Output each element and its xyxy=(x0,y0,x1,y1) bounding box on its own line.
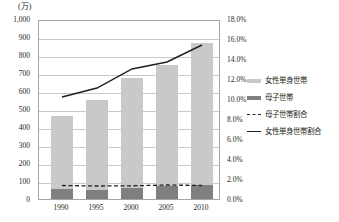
legend-item-female-single-households[interactable]: 女性単身世帯 xyxy=(247,72,339,89)
right-axis-tick: 10.0% xyxy=(227,96,246,104)
chart-container: (万) 1,000 900 800 700 600 500 400 300 20… xyxy=(0,0,339,222)
right-axis-tick: 4.0% xyxy=(227,156,243,164)
x-axis-tick: 1990 xyxy=(44,203,78,212)
left-axis-tick: 0 xyxy=(26,196,30,204)
legend-swatch-light-bar-icon xyxy=(247,79,261,83)
legend-label: 女性単身世帯割合 xyxy=(265,127,321,136)
right-axis-tick: 18.0% xyxy=(227,16,246,24)
legend: 女性単身世帯 母子世帯 母子世帯割合 女性単身世帯割合 xyxy=(247,72,339,140)
x-axis-tick: 2005 xyxy=(149,203,183,212)
legend-dashed-line-icon xyxy=(247,114,261,115)
legend-label: 女性単身世帯 xyxy=(265,76,307,85)
left-axis-tick: 300 xyxy=(19,142,30,150)
legend-item-single-mother-households[interactable]: 母子世帯 xyxy=(247,89,339,106)
right-axis-tick: 14.0% xyxy=(227,56,246,64)
left-axis-tick: 200 xyxy=(19,160,30,168)
plot-area xyxy=(38,20,220,200)
right-axis-tick: 12.0% xyxy=(227,76,246,84)
left-axis-tick: 100 xyxy=(19,178,30,186)
right-axis-tick: 6.0% xyxy=(227,136,243,144)
left-axis-tick: 800 xyxy=(19,52,30,60)
x-axis-tick: 2000 xyxy=(114,203,148,212)
left-axis: 1,000 900 800 700 600 500 400 300 200 10… xyxy=(0,20,34,200)
right-axis-tick: 8.0% xyxy=(227,116,243,124)
legend-label: 母子世帯 xyxy=(265,93,293,102)
legend-item-single-mother-ratio[interactable]: 母子世帯割合 xyxy=(247,106,339,123)
line-female-single-ratio xyxy=(62,45,202,97)
right-axis-tick: 0.0% xyxy=(227,196,243,204)
left-axis-tick: 1,000 xyxy=(13,16,30,24)
left-axis-tick: 400 xyxy=(19,124,30,132)
legend-swatch-dark-bar-icon xyxy=(247,96,261,100)
x-axis: 1990 1995 2000 2005 2010 xyxy=(38,203,220,217)
legend-solid-line-icon xyxy=(247,131,261,132)
x-axis-tick: 2010 xyxy=(184,203,218,212)
legend-label: 母子世帯割合 xyxy=(265,110,307,119)
x-axis-tick: 1995 xyxy=(79,203,113,212)
right-axis-tick: 16.0% xyxy=(227,36,246,44)
left-axis-tick: 600 xyxy=(19,88,30,96)
legend-item-female-single-ratio[interactable]: 女性単身世帯割合 xyxy=(247,123,339,140)
line-single-mother-ratio xyxy=(62,185,202,186)
left-axis-tick: 700 xyxy=(19,70,30,78)
line-series-overlay xyxy=(39,21,221,201)
left-axis-tick: 900 xyxy=(19,34,30,42)
right-axis-tick: 2.0% xyxy=(227,176,243,184)
left-axis-unit-label: (万) xyxy=(18,2,31,12)
left-axis-tick: 500 xyxy=(19,106,30,114)
